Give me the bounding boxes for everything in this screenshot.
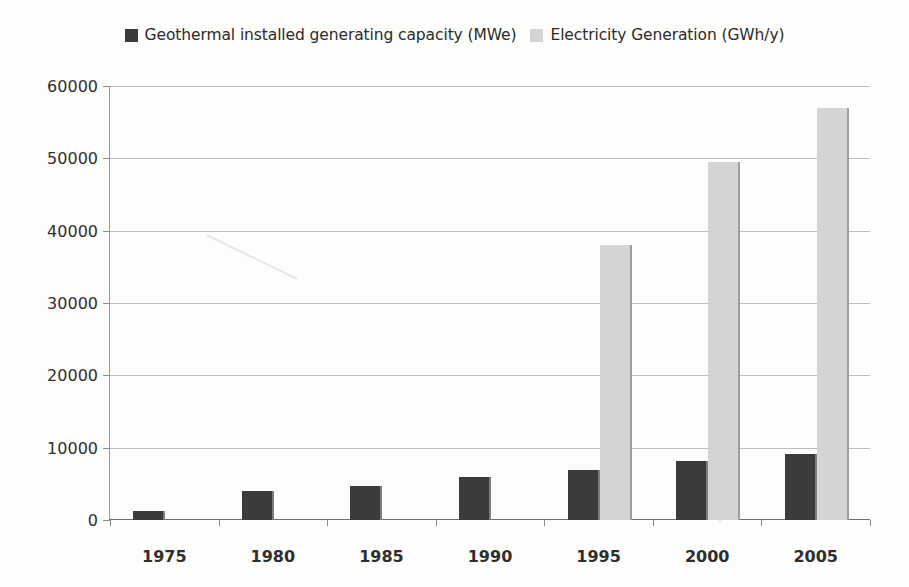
x-axis-label-1980: 1980	[251, 547, 296, 566]
y-axis-tick	[103, 86, 110, 87]
bar-capacity-1985	[350, 486, 380, 520]
y-axis-label: 10000	[47, 438, 98, 457]
plot-area: 0100002000030000400005000060000 19751980…	[110, 86, 870, 520]
y-axis-tick	[103, 231, 110, 232]
gridline	[110, 375, 870, 376]
gridline	[110, 86, 870, 87]
x-axis-label-2000: 2000	[685, 547, 730, 566]
bar-capacity-1980	[242, 491, 272, 520]
x-axis-label-1990: 1990	[468, 547, 513, 566]
y-axis-label: 0	[88, 511, 98, 530]
legend-entry-capacity: Geothermal installed generating capacity…	[125, 26, 517, 44]
bar-generation-1995	[600, 245, 630, 520]
dark-square-icon	[125, 29, 138, 42]
x-axis-tick	[436, 520, 437, 526]
y-axis-label: 20000	[47, 366, 98, 385]
x-axis-tick	[110, 520, 111, 526]
bar-capacity-1975	[133, 511, 163, 520]
gridline	[110, 303, 870, 304]
x-axis-tick	[653, 520, 654, 526]
legend-entry-generation: Electricity Generation (GWh/y)	[530, 26, 784, 44]
x-axis-tick	[327, 520, 328, 526]
y-axis-label: 40000	[47, 221, 98, 240]
gridline	[110, 158, 870, 159]
x-axis-label-2005: 2005	[793, 547, 838, 566]
y-axis-label: 30000	[47, 294, 98, 313]
y-axis-tick	[103, 448, 110, 449]
x-axis-tick	[219, 520, 220, 526]
x-axis-tick	[870, 520, 871, 526]
y-axis-label: 50000	[47, 149, 98, 168]
x-axis-label-1985: 1985	[359, 547, 404, 566]
bar-capacity-2000	[676, 461, 706, 520]
y-axis-label: 60000	[47, 77, 98, 96]
scan-artifact	[207, 234, 298, 279]
chart-legend: Geothermal installed generating capacity…	[0, 26, 909, 44]
gridline	[110, 448, 870, 449]
x-axis-line	[109, 519, 870, 520]
y-axis-tick	[103, 158, 110, 159]
gridline	[110, 231, 870, 232]
y-axis-tick	[103, 303, 110, 304]
x-axis-tick	[544, 520, 545, 526]
y-axis-tick	[103, 520, 110, 521]
y-axis-tick	[103, 375, 110, 376]
bar-capacity-1990	[459, 477, 489, 520]
bar-capacity-1995	[568, 470, 598, 520]
bar-capacity-2005	[785, 454, 815, 520]
bar-generation-2000	[708, 162, 738, 520]
light-square-icon	[530, 29, 543, 42]
chart-page: Geothermal installed generating capacity…	[0, 0, 909, 587]
legend-label-capacity: Geothermal installed generating capacity…	[145, 26, 517, 44]
legend-label-generation: Electricity Generation (GWh/y)	[550, 26, 784, 44]
x-axis-label-1975: 1975	[142, 547, 187, 566]
bar-generation-2005	[817, 108, 847, 520]
x-axis-tick	[761, 520, 762, 526]
x-axis-label-1995: 1995	[576, 547, 621, 566]
